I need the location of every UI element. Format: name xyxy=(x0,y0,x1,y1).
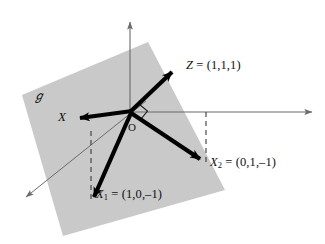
vector-z-name: Z xyxy=(186,58,193,72)
origin-label: O xyxy=(128,122,136,133)
vector-z-label: Z = (1,1,1) xyxy=(186,59,241,72)
vector-x-label: X xyxy=(58,110,66,123)
vector-x1-value: = (1,0,–1) xyxy=(108,187,162,201)
vector-diagram-canvas xyxy=(0,0,325,244)
vector-x-name: X xyxy=(58,109,66,124)
vector-x1-name: X xyxy=(96,187,104,201)
vector-x2-name: X xyxy=(210,155,218,169)
vector-z-value: = (1,1,1) xyxy=(193,58,241,72)
vector-x2-label: X2 = (0,1,–1) xyxy=(210,156,276,170)
plane-label: ℊ xyxy=(33,90,45,102)
vector-x1-label: X1 = (1,0,–1) xyxy=(96,188,162,202)
vector-x2-value: = (0,1,–1) xyxy=(222,155,276,169)
